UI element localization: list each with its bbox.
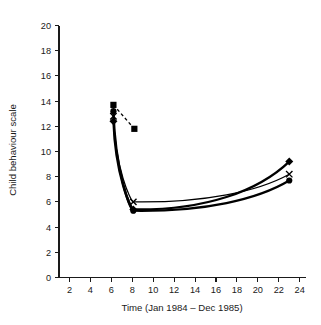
- axes: [59, 26, 306, 278]
- markers-circle-series: [110, 108, 292, 214]
- y-tick-label-18: 18: [41, 46, 51, 56]
- y-tick-label-20: 20: [41, 21, 51, 31]
- series-diamond-series: [113, 121, 289, 209]
- x-tick-label-22: 22: [274, 285, 284, 295]
- x-tick-label-24: 24: [295, 285, 305, 295]
- diamond-series-line: [113, 121, 289, 209]
- y-tick-label-12: 12: [41, 122, 51, 132]
- y-tick-label-16: 16: [41, 71, 51, 81]
- y-tick-label-4: 4: [46, 223, 51, 233]
- chart-plot-area: 0246810121416182024681012141618202224 Ti…: [0, 0, 321, 325]
- x-tick-label-12: 12: [169, 285, 179, 295]
- x-tick-label-18: 18: [232, 285, 242, 295]
- series-square-series: [113, 105, 134, 129]
- x-tick-label-8: 8: [130, 285, 135, 295]
- axis-spines: [59, 26, 306, 278]
- x-tick-label-2: 2: [67, 285, 72, 295]
- square-marker-1: [131, 126, 137, 132]
- cross-series-line: [113, 116, 289, 202]
- y-tick-label-8: 8: [46, 172, 51, 182]
- y-tick-label-10: 10: [41, 147, 51, 157]
- square-marker-0: [110, 102, 116, 108]
- y-tick-label-2: 2: [46, 248, 51, 258]
- y-tick-label-0: 0: [46, 273, 51, 283]
- x-tick-label-4: 4: [88, 285, 93, 295]
- x-tick-label-6: 6: [109, 285, 114, 295]
- circle-marker-2: [286, 177, 292, 183]
- y-tick-label-14: 14: [41, 97, 51, 107]
- data-series: [109, 102, 293, 214]
- y-axis-title: Child behaviour scale: [7, 104, 18, 196]
- x-tick-label-10: 10: [148, 285, 158, 295]
- y-tick-label-6: 6: [46, 197, 51, 207]
- x-tick-label-16: 16: [211, 285, 221, 295]
- x-tick-label-20: 20: [253, 285, 263, 295]
- x-marker-2: [286, 171, 292, 177]
- tick-marks: [55, 26, 300, 283]
- square-series-line: [113, 105, 134, 129]
- circle-series-line: [113, 111, 289, 211]
- x-tick-label-14: 14: [190, 285, 200, 295]
- chart-figure: 0246810121416182024681012141618202224 Ti…: [0, 0, 321, 325]
- series-circle-series: [113, 111, 289, 211]
- tick-labels: 0246810121416182024681012141618202224: [41, 21, 305, 295]
- x-axis-title: Time (Jan 1984 – Dec 1985): [121, 302, 242, 313]
- series-cross-series: [113, 116, 289, 202]
